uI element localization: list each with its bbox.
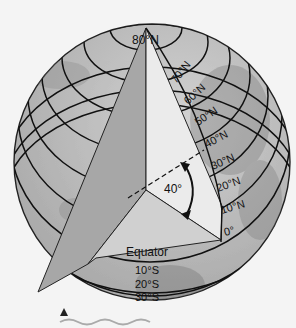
pole-label: 80°N [132,33,159,47]
latitude-label-30s: 30°S [135,291,159,303]
equator-label: Equator [126,245,168,259]
latitude-diagram: 80°N 70°N 60°N 50°N 40°N 30°N 20°N 10°N … [0,0,296,328]
south-latitude-labels: 10°S 20°S 30°S [135,264,159,303]
globe-illustration: 80°N 70°N 60°N 50°N 40°N 30°N 20°N 10°N … [0,0,296,328]
angle-label: 40° [164,182,182,196]
latitude-label-10s: 10°S [135,264,159,276]
latitude-label-20s: 20°S [135,278,159,290]
triangle-marker-icon [60,308,68,316]
wave-icon [60,320,150,325]
